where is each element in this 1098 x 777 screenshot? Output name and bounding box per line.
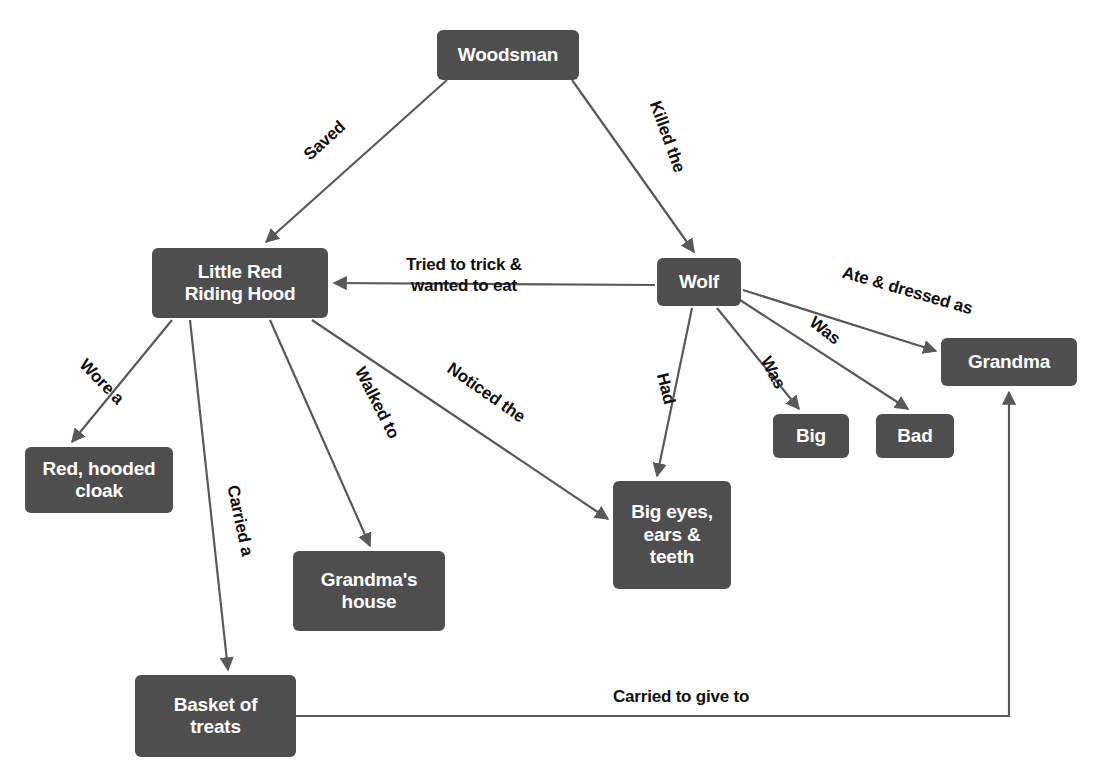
node-label: Little RedRiding Hood (160, 261, 320, 306)
node-label: Basket oftreats (143, 694, 288, 739)
node-woodsman[interactable]: Woodsman (437, 30, 579, 80)
node-label: Big eyes,ears &teeth (621, 501, 723, 568)
node-basket[interactable]: Basket oftreats (135, 675, 296, 757)
node-little_red[interactable]: Little RedRiding Hood (152, 248, 328, 318)
edge-label-basket-grandma: Carried to give to (613, 686, 749, 707)
node-label: Grandma (949, 351, 1069, 373)
edge-label-wolf-little_red: Tried to trick &wanted to eat (406, 254, 522, 297)
node-label: Red, hoodedcloak (33, 458, 165, 503)
node-label: Bad (884, 425, 946, 447)
edge-little_red-basket (190, 320, 228, 670)
node-label: Big (781, 425, 841, 447)
concept-map-canvas: WoodsmanLittle RedRiding HoodWolfGrandma… (0, 0, 1098, 777)
edge-woodsman-little_red (266, 80, 447, 242)
node-grandma[interactable]: Grandma (941, 338, 1077, 386)
node-wolf[interactable]: Wolf (657, 258, 741, 306)
node-label: Wolf (665, 271, 733, 293)
node-big_eyes[interactable]: Big eyes,ears &teeth (613, 481, 731, 589)
node-label: Grandma'shouse (301, 569, 437, 614)
edge-little_red-big_eyes (312, 320, 608, 519)
node-label: Woodsman (445, 44, 571, 66)
node-house[interactable]: Grandma'shouse (293, 551, 445, 631)
edge-layer (0, 0, 1098, 777)
node-bad[interactable]: Bad (876, 414, 954, 458)
edge-little_red-house (270, 320, 370, 546)
node-big[interactable]: Big (773, 414, 849, 458)
node-cloak[interactable]: Red, hoodedcloak (25, 447, 173, 513)
edge-wolf-big (717, 308, 799, 409)
